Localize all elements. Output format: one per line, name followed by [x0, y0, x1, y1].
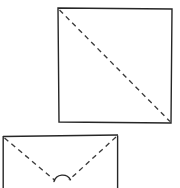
drawing-surface [0, 0, 180, 188]
canvas-background [0, 0, 180, 188]
figure-canvas: Square sheet with diagonal fold line Rec… [0, 0, 180, 188]
